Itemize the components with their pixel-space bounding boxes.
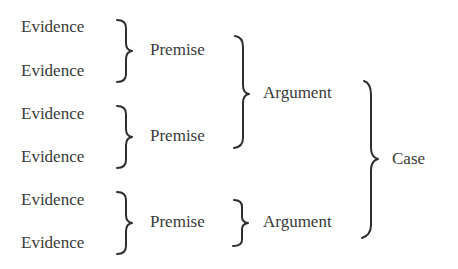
braces-layer: [0, 0, 458, 269]
brace-icon-premise-1-2: [234, 36, 249, 148]
brace-icon-arguments: [362, 81, 378, 238]
brace-icon-premise-3: [233, 200, 248, 246]
brace-icon-evidence-3-4: [117, 106, 132, 168]
brace-icon-evidence-1-2: [117, 20, 132, 82]
brace-icon-evidence-5-6: [117, 192, 132, 254]
